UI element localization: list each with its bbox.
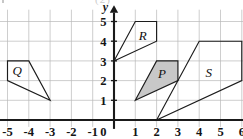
x-tick-label-2: 2 [153, 125, 159, 139]
y-axis-arrowhead [110, 5, 118, 12]
shape-label-r: R [138, 28, 147, 43]
x-tick-label-3: 3 [175, 125, 181, 139]
y-axis-name: y [101, 0, 109, 14]
x-tick-label--2: -2 [66, 125, 76, 139]
x-tick-label--1: -1 [87, 125, 97, 139]
x-tick-label--3: -3 [45, 125, 55, 139]
y-tick-label-1: 1 [100, 94, 106, 108]
shape-label-q: Q [12, 63, 22, 78]
shape-label-s: S [206, 65, 213, 80]
y-tick-label-2: 2 [100, 74, 106, 88]
x-tick-label-5: 5 [217, 125, 223, 139]
x-tick-label--5: -5 [2, 125, 12, 139]
x-tick-label-4: 4 [196, 125, 203, 139]
y-tick-label-4: 4 [100, 35, 107, 49]
plot-canvas: -5-4-3-2-1123456123450 QRPS xy [0, 0, 243, 139]
shape-label-p: P [157, 66, 166, 81]
x-tick-label--4: -4 [24, 125, 35, 139]
coordinate-plane-figure: (2) -5-4-3-2-1123456123450 QRPS xy [0, 0, 243, 139]
origin-label: 0 [100, 125, 106, 139]
x-tick-label-6: 6 [239, 125, 243, 139]
y-tick-label-3: 3 [100, 55, 106, 69]
y-tick-label-5: 5 [100, 15, 106, 29]
x-tick-label-1: 1 [132, 125, 138, 139]
